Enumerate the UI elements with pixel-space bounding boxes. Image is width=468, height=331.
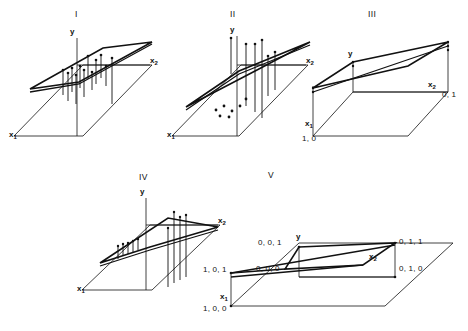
residual-stems-right-4 xyxy=(168,212,186,287)
base-points-2 xyxy=(215,98,248,119)
panel-2-graphic xyxy=(158,0,318,160)
panel-5-x1-axis-label: x1 xyxy=(220,293,228,301)
panel-3-title: III xyxy=(368,10,376,19)
panel-2-y-axis-label: y xyxy=(230,26,234,34)
panel-5-title: V xyxy=(268,171,274,180)
panel-3-coord-0-1: 0, 1 xyxy=(442,91,456,99)
panel-4-x1-axis-label: x1 xyxy=(77,285,85,293)
base-plane-2 xyxy=(172,65,308,136)
panel-3-graphic xyxy=(300,0,468,160)
figure-root: I y x1 x2 xyxy=(0,0,468,331)
panel-1-x1-sub: 1 xyxy=(13,134,16,140)
panel-3-x2-sub: 2 xyxy=(432,84,435,90)
panel-4-title: IV xyxy=(139,173,148,182)
panel-2-title: II xyxy=(230,10,236,19)
response-top-5 xyxy=(285,243,395,269)
panel-3-x1-sub: 1 xyxy=(309,123,312,129)
panel-3-x2-axis-label: x2 xyxy=(428,81,436,89)
panel-5-x1-sub: 1 xyxy=(224,296,227,302)
panel-5-coord-0-1-0: 0, 1, 0 xyxy=(399,265,423,273)
panel-1-graphic xyxy=(0,0,165,160)
panel-2-x1-axis-label: x1 xyxy=(167,131,175,139)
figure-caption xyxy=(0,323,468,331)
panel-1-x2-axis-label: x2 xyxy=(150,57,158,65)
panel-5-coord-1-0-0: 1, 0, 0 xyxy=(203,305,227,313)
panel-1-y-axis-label: y xyxy=(70,28,74,36)
panel-2: II y x1 x2 xyxy=(158,0,318,160)
panel-1-x1-axis-label: x1 xyxy=(9,131,17,139)
panel-5-coord-1-0-1: 1, 0, 1 xyxy=(203,266,227,274)
panel-4-x1-sub: 1 xyxy=(81,288,84,294)
panel-3-x1-axis-label: x1 xyxy=(305,120,313,128)
base-plane-3 xyxy=(313,92,448,136)
panel-3: III y x1 1, 0 x2 0, 1 xyxy=(300,0,468,160)
panel-4-y-axis-label: y xyxy=(140,188,144,196)
plane-edge-2 xyxy=(186,45,310,110)
panel-5: V y 0, 0, 1 0, 0, 0 0, 1, 1 0, 1, 0 x2 x… xyxy=(195,165,468,331)
panel-5-graphic xyxy=(195,165,468,331)
panel-1: I y x1 x2 xyxy=(0,0,165,160)
panel-5-coord-0-1-1: 0, 1, 1 xyxy=(399,238,423,246)
panel-5-coord-0-0-0: 0, 0, 0 xyxy=(256,265,280,273)
panel-5-y-axis-label: y xyxy=(296,233,300,241)
panel-5-coord-0-0-1: 0, 0, 1 xyxy=(258,239,282,247)
panel-3-coord-1-0: 1, 0 xyxy=(302,135,316,143)
panel-5-x2-sub: 2 xyxy=(373,256,376,262)
panel-3-y-axis-label: y xyxy=(348,50,352,58)
panel-1-title: I xyxy=(75,10,78,19)
panel-2-x1-sub: 1 xyxy=(171,134,174,140)
base-plane-1 xyxy=(14,65,152,136)
fitted-plane-1 xyxy=(30,42,152,89)
panel-5-x2-axis-label: x2 xyxy=(369,253,377,261)
